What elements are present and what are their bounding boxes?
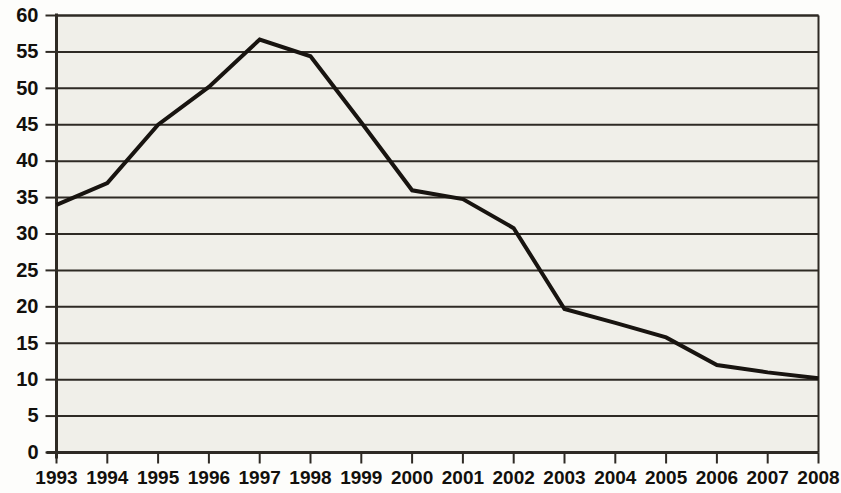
y-tick-label: 30 (16, 222, 38, 244)
y-tick-label: 20 (16, 295, 38, 317)
y-tick-label: 15 (16, 332, 38, 354)
y-tick-label: 60 (16, 4, 38, 26)
y-tick-label: 5 (27, 404, 38, 426)
line-chart-figure: 0510152025303540455055601993199419951996… (0, 0, 841, 493)
x-tick-label: 2001 (442, 467, 485, 488)
x-tick-label: 2000 (391, 467, 433, 488)
y-tick-label: 40 (16, 149, 38, 171)
y-tick-label: 35 (16, 186, 38, 208)
x-tick-label: 1995 (137, 467, 180, 488)
y-tick-label: 50 (16, 77, 38, 99)
x-tick-label: 1999 (340, 467, 382, 488)
x-tick-label: 2006 (696, 467, 738, 488)
x-tick-label: 2004 (594, 467, 637, 488)
y-tick-label: 0 (27, 441, 38, 463)
x-tick-label: 2008 (797, 467, 839, 488)
y-tick-label: 10 (16, 368, 38, 390)
x-tick-label: 2002 (493, 467, 535, 488)
y-tick-label: 45 (16, 113, 38, 135)
y-tick-label: 55 (16, 40, 38, 62)
x-tick-label: 2007 (747, 467, 789, 488)
x-tick-label: 2005 (645, 467, 688, 488)
x-tick-label: 1993 (35, 467, 77, 488)
x-tick-label: 1996 (188, 467, 230, 488)
y-tick-label: 25 (16, 259, 38, 281)
x-tick-label: 1997 (239, 467, 281, 488)
x-tick-label: 1994 (86, 467, 129, 488)
chart-canvas: 0510152025303540455055601993199419951996… (0, 0, 841, 493)
x-tick-label: 2003 (543, 467, 585, 488)
x-tick-label: 1998 (289, 467, 331, 488)
